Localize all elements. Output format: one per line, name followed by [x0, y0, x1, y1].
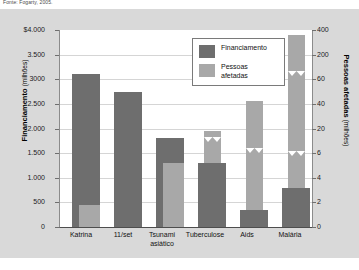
bar-pessoas-afetadas-katrina	[79, 205, 100, 227]
bar-financiamento-tuberculose	[198, 163, 226, 227]
bar-financiamento-11set	[114, 92, 142, 228]
legend: Financiamento Pessoas afetadas	[192, 38, 285, 86]
bar-financiamento-malaria	[282, 188, 310, 227]
bar-pessoas-afetadas-tsunami	[163, 163, 184, 227]
chart-figure: Fonte: Fogarty, 2005. $4.000 3.500 3000 …	[0, 0, 359, 270]
axis-break-marker	[246, 148, 263, 155]
left-tick-label: 0	[0, 223, 45, 230]
right-tick-label: 4	[317, 174, 347, 181]
right-tick-label: 2	[317, 198, 347, 205]
legend-label-pessoas-afetadas: Pessoas afetadas	[221, 63, 248, 80]
left-axis-title-text: Financiamento	[20, 88, 29, 141]
right-tick-label: 0	[317, 223, 347, 230]
legend-swatch-pessoas-afetadas	[199, 64, 215, 77]
left-tick-label: 500	[0, 198, 45, 205]
left-axis-unit: (milhões)	[21, 60, 28, 87]
legend-label-financiamento: Financiamento	[221, 44, 267, 53]
axis-break-marker	[288, 151, 305, 158]
left-tick-label: 1.000	[0, 174, 45, 181]
legend-swatch-financiamento	[199, 45, 215, 58]
category-label-malaria: Malária	[264, 231, 316, 240]
left-tick-label: $4.000	[0, 26, 45, 33]
right-axis-title-text: Pessoas afetadas	[342, 55, 351, 118]
right-tick-label: 400	[317, 26, 347, 33]
bar-pessoas-afetadas-aids	[246, 101, 263, 227]
source-note: Fonte: Fogarty, 2005.	[3, 0, 53, 5]
right-axis-title: Pessoas afetadas (milhões)	[342, 41, 351, 161]
axis-break-marker	[288, 71, 305, 78]
right-axis-unit: (milhões)	[343, 120, 350, 147]
axis-break-marker	[204, 137, 221, 144]
left-axis-title: Financiamento (milhões)	[20, 41, 29, 161]
bar-financiamento-aids	[240, 210, 268, 227]
